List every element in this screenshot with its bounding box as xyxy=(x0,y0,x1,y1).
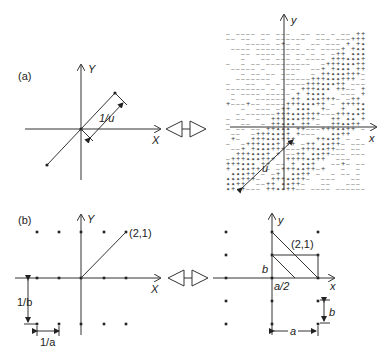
pattern-minus-mark: — xyxy=(331,175,335,182)
pattern-minus-mark: — xyxy=(266,110,270,117)
lattice-point xyxy=(103,277,106,280)
pattern-plus-mark: + xyxy=(231,185,235,193)
pattern-minus-mark: — xyxy=(246,110,250,117)
pattern-minus-mark: — xyxy=(321,110,325,117)
pattern-minus-mark: — xyxy=(266,80,270,87)
pattern-minus-mark: — xyxy=(226,60,230,67)
lattice-point xyxy=(225,231,228,234)
pattern-minus-mark: — xyxy=(306,45,310,52)
dimension-label-1-over-u: 1/u xyxy=(99,112,114,124)
pattern-minus-mark: — xyxy=(311,185,315,192)
pattern-plus-mark: + xyxy=(346,75,350,83)
lattice-point xyxy=(125,323,128,326)
pattern-plus-mark: + xyxy=(311,115,315,123)
pattern-minus-mark: — xyxy=(251,100,255,107)
pattern-minus-mark: — xyxy=(276,80,280,87)
y-axis-label: Y xyxy=(88,63,96,75)
dimension-label-a: a xyxy=(290,325,296,337)
pattern-minus-mark: — xyxy=(326,185,330,192)
transform-arrow-b xyxy=(168,270,208,286)
pattern-minus-mark: — xyxy=(261,120,265,127)
pattern-plus-mark: + xyxy=(341,130,345,138)
pattern-minus-mark: — xyxy=(276,45,280,52)
label-b: b xyxy=(262,263,268,275)
lattice-point xyxy=(225,300,228,303)
pattern-plus-mark: + xyxy=(326,150,330,158)
pattern-plus-mark: + xyxy=(301,85,305,93)
pattern-plus-mark: + xyxy=(281,135,285,143)
pattern-minus-mark: — xyxy=(331,30,335,37)
lattice-point xyxy=(103,231,106,234)
y-axis-label: y xyxy=(290,14,298,26)
x-axis-label: x xyxy=(329,280,336,292)
lattice-point xyxy=(80,231,83,234)
pattern-minus-mark: — xyxy=(301,185,305,192)
pattern-plus-mark: + xyxy=(351,35,355,43)
pattern-minus-mark: — xyxy=(261,55,265,62)
pattern-minus-mark: — xyxy=(236,100,240,107)
lattice-point xyxy=(317,231,320,234)
pattern-minus-mark: — xyxy=(361,160,365,167)
pattern-minus-mark: — xyxy=(306,175,310,182)
pattern-minus-mark: — xyxy=(291,35,295,42)
pattern-plus-mark: + xyxy=(321,125,325,133)
lattice-point xyxy=(317,300,320,303)
panel-b-right: y x (2,1) b a/2 b a xyxy=(213,214,336,337)
lattice-point xyxy=(317,323,320,326)
pattern-minus-mark: — xyxy=(231,100,235,107)
pattern-minus-mark: — xyxy=(331,100,335,107)
pattern-minus-mark: — xyxy=(251,40,255,47)
pattern-minus-mark: — xyxy=(341,90,345,97)
y-axis-label: Y xyxy=(87,213,95,225)
pattern-minus-mark: — xyxy=(261,65,265,72)
pattern-minus-mark: — xyxy=(251,110,255,117)
pattern-minus-mark: — xyxy=(356,185,360,192)
right-triangle-icon xyxy=(190,121,206,137)
lattice-point xyxy=(225,254,228,257)
pattern-plus-mark: + xyxy=(361,90,365,98)
pattern-minus-mark: — xyxy=(266,30,270,37)
left-triangle-icon xyxy=(166,121,182,137)
pattern-minus-mark: — xyxy=(236,135,240,142)
pattern-plus-mark: + xyxy=(361,115,365,123)
pattern-plus-mark: + xyxy=(311,165,315,173)
pattern-plus-mark: + xyxy=(281,165,285,173)
pattern-minus-mark: — xyxy=(231,45,235,52)
pattern-minus-mark: — xyxy=(336,185,340,192)
pattern-minus-mark: — xyxy=(241,35,245,42)
pattern-minus-mark: — xyxy=(296,185,300,192)
pattern-minus-mark: — xyxy=(336,95,340,102)
pattern-minus-mark: — xyxy=(251,185,255,192)
pattern-plus-mark: + xyxy=(316,100,320,108)
x-axis-label: X xyxy=(151,134,160,146)
pattern-minus-mark: — xyxy=(261,180,265,187)
lattice-point xyxy=(125,277,128,280)
pattern-plus-mark: + xyxy=(266,185,270,193)
panel-b-left: (b) Y X (2,1) 1/b 1/a xyxy=(15,213,160,348)
lattice-point xyxy=(80,323,83,326)
pattern-minus-mark: — xyxy=(306,60,310,67)
vector-2-1 xyxy=(81,232,126,278)
pattern-plus-mark: + xyxy=(316,155,320,163)
pattern-plus-mark: + xyxy=(326,95,330,103)
pattern-minus-mark: — xyxy=(316,170,320,177)
pattern-minus-mark: — xyxy=(236,45,240,52)
pattern-minus-mark: — xyxy=(271,50,275,57)
panel-a-label: (a) xyxy=(18,70,31,82)
pattern-minus-mark: — xyxy=(256,60,260,67)
pattern-minus-mark: — xyxy=(246,120,250,127)
pattern-minus-mark: — xyxy=(311,130,315,137)
pattern-minus-mark: — xyxy=(236,115,240,122)
pattern-minus-mark: — xyxy=(316,65,320,72)
pattern-minus-mark: — xyxy=(276,60,280,67)
pattern-minus-mark: — xyxy=(286,90,290,97)
pattern-plus-mark: + xyxy=(326,125,330,133)
pattern-minus-mark: — xyxy=(236,65,240,72)
pattern-minus-mark: — xyxy=(326,45,330,52)
pattern-plus-mark: + xyxy=(231,135,235,143)
diagram-canvas: (a) Y X 1/u —————————————————++—————————… xyxy=(0,0,392,360)
pattern-minus-mark: — xyxy=(251,30,255,37)
pattern-minus-mark: — xyxy=(241,125,245,132)
pattern-minus-mark: — xyxy=(361,125,365,132)
pattern-minus-mark: — xyxy=(236,30,240,37)
